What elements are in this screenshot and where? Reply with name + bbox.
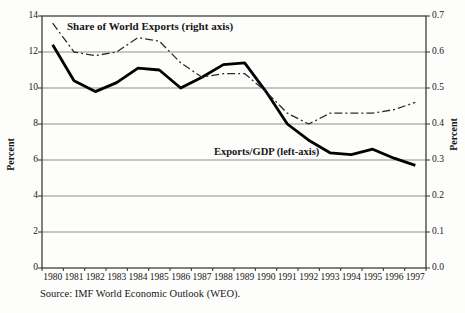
right-axis-tick-label: 0.2 [432, 190, 460, 201]
right-axis-tick-label: 0.0 [432, 262, 460, 273]
share-of-world-exports-annotation: Share of World Exports (right axis) [67, 20, 233, 32]
right-axis-title: Percent [448, 109, 459, 161]
right-axis-tick-label: 0.6 [432, 46, 460, 57]
left-axis-title: Percent [5, 129, 16, 181]
right-axis-tick-label: 0.5 [432, 82, 460, 93]
source-note: Source: IMF World Economic Outlook (WEO)… [40, 288, 240, 299]
left-axis-tick-label: 4 [10, 190, 38, 201]
left-axis-tick-label: 12 [10, 46, 38, 57]
left-axis-tick-label: 0 [10, 262, 38, 273]
left-axis-tick-label: 14 [10, 10, 38, 21]
left-axis-tick-label: 2 [10, 226, 38, 237]
left-axis-tick-label: 8 [10, 118, 38, 129]
x-axis-tick-label: 1997 [403, 272, 427, 283]
exports-gdp-annotation: Exports/GDP (left-axis) [214, 146, 319, 157]
right-axis-tick-label: 0.1 [432, 226, 460, 237]
plot-border [42, 16, 426, 268]
left-axis-tick-label: 10 [10, 82, 38, 93]
chart-canvas: 024681012140.00.10.20.30.40.50.60.719801… [0, 0, 465, 313]
world-share-line [53, 23, 416, 124]
right-axis-tick-label: 0.7 [432, 10, 460, 21]
